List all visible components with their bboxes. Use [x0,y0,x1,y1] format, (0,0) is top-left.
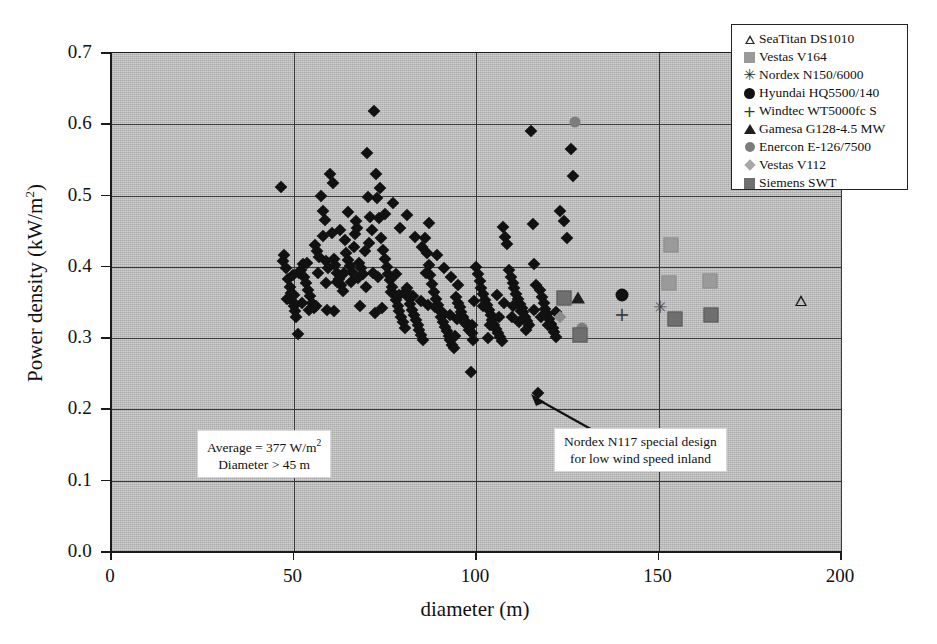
legend-symbol-cell [740,84,759,102]
circle-filled-icon [744,88,755,99]
circle-gray-icon [745,142,755,152]
x-tick-mark [293,551,295,560]
legend-item-8[interactable]: Siemens SWT [740,174,907,192]
x-tick-mark [840,551,842,560]
legend-item-label: Siemens SWT [759,176,837,190]
legend-symbol-cell [740,174,759,192]
legend-item-7[interactable]: Vestas V112 [740,156,907,174]
square-dark-icon [744,178,755,189]
annotation-average-text: Average = 377 W/m [207,440,316,455]
y-axis-label-superscript: 2 [22,191,37,198]
legend-item-5[interactable]: Gamesa G128-4.5 MW [740,120,907,138]
legend-item-label: Gamesa G128-4.5 MW [759,122,885,136]
legend-symbol-cell [740,138,759,156]
data-point-diamond [369,168,382,181]
y-tick-mark [101,266,111,268]
data-point-triangle-open [795,295,807,306]
legend-item-label: SeaTitan DS1010 [759,32,854,46]
data-point-diamond [359,280,372,293]
data-point-star: ✳ [653,300,667,314]
data-point-diamond [315,189,328,202]
x-tick-label: 0 [70,566,150,585]
data-point-diamond [371,191,384,204]
data-point-square-dark [556,290,571,305]
legend-item-6[interactable]: Enercon E-126/7500 [740,138,907,156]
y-tick-mark [101,52,111,54]
y-tick-mark [101,408,111,410]
annotation-nordex: Nordex N117 special design for low wind … [554,428,727,472]
y-tick-mark [101,337,111,339]
legend-item-label: Enercon E-126/7500 [759,140,871,154]
x-axis-label: diameter (m) [110,597,840,622]
x-tick-mark [110,551,112,560]
data-point-diamond [386,196,399,209]
legend-item-0[interactable]: SeaTitan DS1010 [740,30,907,48]
data-point-triangle-filled [571,292,585,304]
annotation-average: Average = 377 W/m2 Diameter > 45 m [197,430,331,478]
annotation-average-line2: Diameter > 45 m [207,456,321,473]
legend: SeaTitan DS1010Vestas V164✳Nordex N150/6… [731,24,908,190]
legend-symbol-cell [740,156,759,174]
legend-item-label: Vestas V164 [759,50,827,64]
y-axis-label: Power density (kW/m2) [22,73,48,493]
legend-item-label: Vestas V112 [759,158,826,172]
data-point-circle-filled [616,289,629,302]
y-tick-mark [101,480,111,482]
data-point-diamond [360,146,373,159]
data-point-diamond [561,232,574,245]
legend-item-label: Nordex N150/6000 [759,68,864,82]
legend-item-label: Hyundai HQ5500/140 [759,86,879,100]
data-point-diamond [430,248,443,261]
y-tick-mark [101,195,111,197]
legend-item-2[interactable]: ✳Nordex N150/6000 [740,66,907,84]
data-point-diamond [319,277,332,290]
data-point-diamond [524,125,537,138]
data-point-diamond [565,142,578,155]
square-light-icon [744,52,755,63]
plus-icon: + [743,105,756,118]
data-point-diamond [341,206,354,219]
legend-item-label: Windtec WT5000fc S [759,104,877,118]
y-axis-line [110,52,112,552]
y-tick-mark [101,123,111,125]
x-tick-mark [658,551,660,560]
annotation-nordex-line1: Nordex N117 special design [564,433,717,450]
data-point-diamond [274,181,287,194]
x-tick-label: 50 [253,566,333,585]
diamond-gray-icon [744,159,755,170]
data-point-diamond [423,217,436,230]
triangle-open-icon [745,35,755,44]
data-point-diamond [566,170,579,183]
x-tick-label: 200 [800,566,880,585]
legend-symbol-cell: + [740,102,759,120]
data-point-diamond [528,258,541,271]
data-point-diamond [367,105,380,118]
legend-item-1[interactable]: Vestas V164 [740,48,907,66]
data-point-diamond [401,208,414,221]
data-point-diamond [526,218,539,231]
data-point-diamond [394,221,407,234]
y-tick-label: 0.7 [36,42,92,61]
legend-item-4[interactable]: +Windtec WT5000fc S [740,102,907,120]
data-point-plus: + [614,306,630,321]
x-tick-label: 150 [618,566,698,585]
legend-symbol-cell [740,120,759,138]
annotation-average-line1: Average = 377 W/m2 [207,435,321,456]
data-point-circle-gray [569,117,580,128]
annotation-nordex-line2: for low wind speed inland [564,450,717,467]
x-tick-label: 100 [435,566,515,585]
triangle-filled-icon [744,124,756,134]
data-point-square-dark [573,327,588,342]
legend-item-3[interactable]: Hyundai HQ5500/140 [740,84,907,102]
data-point-square-light [662,275,677,290]
legend-symbol-cell [740,48,759,66]
data-point-square-light [702,274,717,289]
legend-symbol-cell: ✳ [740,66,759,84]
legend-symbol-cell [740,30,759,48]
data-point-diamond [375,232,388,245]
data-point-diamond [464,365,477,378]
data-point-diamond [354,300,367,313]
y-tick-label: 0.0 [36,541,92,560]
data-point-square-light [664,238,679,253]
data-point-square-dark [667,311,682,326]
